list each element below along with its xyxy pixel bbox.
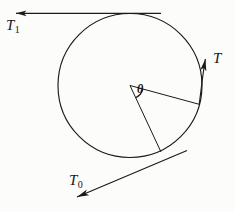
capstan-tension-diagram: T1 T0 T θ	[0, 0, 234, 212]
vector-label-t-base: T	[213, 50, 221, 66]
vector-label-t: T	[213, 50, 221, 66]
vector-label-t0-subscript: 0	[78, 179, 83, 190]
vector-label-t0: T0	[69, 172, 83, 190]
vector-label-t1: T1	[6, 17, 20, 35]
vector-label-t1-base: T	[6, 17, 14, 33]
vector-t-line	[199, 59, 205, 105]
angle-label-theta: θ	[137, 83, 143, 95]
vector-label-t1-subscript: 1	[15, 24, 20, 35]
diagram-canvas	[0, 0, 234, 212]
vector-label-t0-base: T	[69, 172, 77, 188]
vector-t	[199, 59, 205, 105]
radius-to-t0-tangent	[130, 86, 161, 153]
